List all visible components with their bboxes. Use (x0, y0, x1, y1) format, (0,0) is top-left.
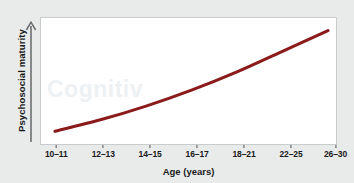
x-tick-label: 26–30 (324, 149, 347, 159)
plot-area: Cognitiv (40, 17, 337, 145)
tick-mark-icon (197, 145, 198, 148)
x-tick-label: 14–15 (139, 149, 162, 159)
x-axis-label: Age (years) (40, 166, 337, 177)
x-tick-1: 12–13 (92, 145, 115, 159)
x-axis-tick-group: 10–11 12–13 14–15 16–17 18–21 22–25 26–3… (40, 145, 337, 161)
tick-mark-icon (290, 145, 291, 148)
y-axis-label: Psychosocial maturity (16, 11, 27, 151)
x-tick-label: 12–13 (92, 149, 115, 159)
tick-mark-icon (56, 145, 57, 148)
tick-mark-icon (103, 145, 104, 148)
tick-mark-icon (335, 145, 336, 148)
x-tick-4: 18–21 (232, 145, 255, 159)
chart-figure: Cognitiv Psychosocial maturity 10–11 12–… (0, 0, 354, 183)
x-tick-label: 16–17 (186, 149, 209, 159)
x-tick-label: 22–25 (279, 149, 302, 159)
background-watermark: Cognitiv (47, 76, 143, 103)
x-tick-0: 10–11 (45, 145, 68, 159)
x-tick-2: 14–15 (139, 145, 162, 159)
x-tick-6: 26–30 (324, 145, 347, 159)
x-tick-label: 10–11 (45, 149, 68, 159)
x-tick-3: 16–17 (186, 145, 209, 159)
tick-mark-icon (244, 145, 245, 148)
x-tick-5: 22–25 (279, 145, 302, 159)
x-tick-label: 18–21 (232, 149, 255, 159)
tick-mark-icon (150, 145, 151, 148)
